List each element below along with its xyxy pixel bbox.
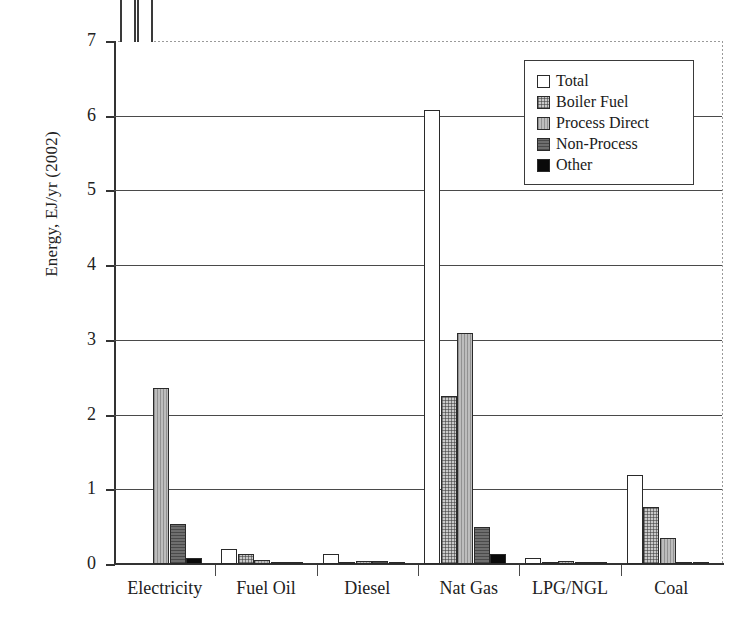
- bar-lpg-ngl-other: [591, 562, 607, 564]
- x-axis-separator-1: [215, 565, 216, 576]
- bar-diesel-boiler-fuel: [339, 562, 355, 564]
- y-tick-label-6: 6: [56, 105, 96, 126]
- bar-lpg-ngl-process-direct: [558, 561, 574, 564]
- bar-nat-gas-process-direct: [457, 333, 473, 564]
- bar-lpg-ngl-non-process: [575, 562, 591, 564]
- y-tick-label-4: 4: [56, 254, 96, 275]
- bar-nat-gas-non-process: [474, 527, 490, 564]
- y-tick-label-1: 1: [56, 478, 96, 499]
- bar-diesel-total: [323, 554, 339, 564]
- bar-diesel-other: [389, 562, 405, 564]
- bar-lpg-ngl-boiler-fuel: [542, 562, 558, 564]
- gridline-4: [114, 265, 722, 266]
- legend-label: Total: [556, 72, 589, 89]
- legend-swatch-other-icon: [537, 159, 550, 172]
- bar-diesel-process-direct: [356, 561, 372, 564]
- y-tick-label-5: 5: [56, 179, 96, 200]
- legend-swatch-process-direct-icon: [537, 117, 550, 130]
- legend-label: Non-Process: [556, 135, 638, 152]
- bar-chart: Energy, EJ/yr (2002) 01234567 Electricit…: [0, 0, 750, 626]
- bar-coal-other: [693, 562, 709, 564]
- gridline-5: [114, 190, 722, 191]
- x-label-coal: Coal: [621, 578, 722, 599]
- bar-coal-boiler-fuel: [643, 507, 659, 564]
- x-axis-separator-2: [317, 565, 318, 576]
- plot-border-right: [722, 41, 723, 565]
- bar-coal-total: [627, 475, 643, 564]
- bar-lpg-ngl-total: [525, 558, 541, 564]
- x-label-electricity: Electricity: [114, 578, 215, 599]
- x-label-diesel: Diesel: [317, 578, 418, 599]
- legend-swatch-non-process-icon: [537, 138, 550, 151]
- bar-nat-gas-boiler-fuel: [441, 396, 457, 564]
- x-axis-separator-3: [418, 565, 419, 576]
- bar-electricity-other: [186, 558, 202, 564]
- x-axis-separator-4: [519, 565, 520, 576]
- bar-nat-gas-total: [424, 110, 440, 564]
- y-tick-label-7: 7: [56, 30, 96, 51]
- bar-nat-gas-other: [490, 554, 506, 564]
- bar-diesel-non-process: [372, 561, 388, 564]
- x-axis-separator-5: [621, 565, 622, 576]
- gridline-3: [114, 340, 722, 341]
- x-label-lpg-ngl: LPG/NGL: [519, 578, 620, 599]
- legend-item-total: Total: [537, 70, 683, 91]
- x-label-nat-gas: Nat Gas: [418, 578, 519, 599]
- bar-fuel-oil-non-process: [271, 562, 287, 564]
- y-axis-title: Energy, EJ/yr (2002): [42, 54, 66, 354]
- bar-fuel-oil-boiler-fuel: [238, 554, 254, 564]
- y-tick-label-0: 0: [56, 553, 96, 574]
- legend-swatch-total-icon: [537, 75, 550, 88]
- bar-electricity-boiler-fuel-clipped: [137, 0, 153, 42]
- legend-swatch-boiler-fuel-icon: [537, 96, 550, 109]
- legend-item-boiler-fuel: Boiler Fuel: [537, 91, 683, 112]
- legend-item-other: Other: [537, 154, 683, 175]
- bar-fuel-oil-process-direct: [254, 560, 270, 564]
- gridline-2: [114, 415, 722, 416]
- legend-item-non-process: Non-Process: [537, 133, 683, 154]
- bar-electricity-process-direct: [153, 388, 169, 564]
- bar-electricity-total-clipped: [120, 0, 136, 42]
- y-tick-label-2: 2: [56, 404, 96, 425]
- y-tick-label-3: 3: [56, 329, 96, 350]
- x-label-fuel-oil: Fuel Oil: [215, 578, 316, 599]
- bar-coal-process-direct: [660, 538, 676, 564]
- bar-fuel-oil-total: [221, 549, 237, 564]
- legend-label: Other: [556, 156, 592, 173]
- bar-coal-non-process: [676, 562, 692, 564]
- legend-item-process-direct: Process Direct: [537, 112, 683, 133]
- legend-label: Boiler Fuel: [556, 93, 628, 110]
- legend-label: Process Direct: [556, 114, 649, 131]
- bar-fuel-oil-other: [287, 562, 303, 564]
- bar-electricity-non-process: [170, 524, 186, 564]
- chart-legend: TotalBoiler FuelProcess DirectNon-Proces…: [524, 60, 694, 185]
